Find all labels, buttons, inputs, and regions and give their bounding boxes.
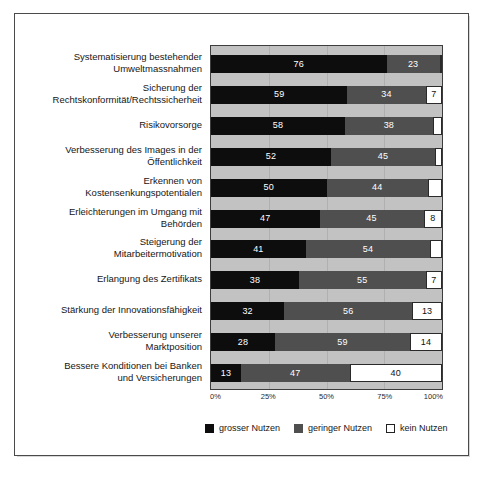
bar-segment-none: 8 [424,210,442,228]
bar-value-label: 13 [221,369,231,378]
bar-segment-big: 32 [211,302,284,320]
bar-row: 134740 [211,364,442,382]
bar-segment-none [430,240,442,258]
category-label: Bessere Konditionen bei Bankenund Versic… [12,360,202,384]
x-tick-label: 0% [210,392,221,401]
bar-segment-small: 56 [284,302,412,320]
bar-segment-none: 7 [426,86,442,104]
bar-row: 59347 [211,86,442,104]
bar-value-label: 8 [430,214,435,223]
bar-value-label: 7 [431,276,436,285]
legend-item: grosser Nutzen [205,423,280,433]
x-tick-label: 50% [319,392,334,401]
bar-value-label: 47 [290,369,300,378]
bar-segment-big: 38 [211,271,299,289]
category-label: Sicherung derRechtskonformität/Rechtssic… [12,82,202,106]
category-label-column: Systematisierung bestehenderUmweltmassna… [12,45,202,390]
bar-value-label: 59 [337,338,347,347]
bar-row: 5838 [211,117,442,135]
bar-segment-small: 23 [387,55,440,73]
bar-segment-big: 59 [211,86,347,104]
x-tick-label: 100% [424,392,443,401]
bar-segment-none: 7 [426,271,442,289]
bar-value-label: 76 [294,60,304,69]
bar-value-label: 14 [421,338,431,347]
bar-row: 285914 [211,333,442,351]
category-label: Verbesserung des Images in derÖffentlich… [12,144,202,168]
bar-segment-big: 41 [211,240,306,258]
bar-segment-small: 45 [331,148,435,166]
stacked-bar-chart: Systematisierung bestehenderUmweltmassna… [0,0,488,477]
bar-value-label: 38 [384,121,394,130]
bar-segment-small: 55 [299,271,426,289]
bar-value-label: 55 [357,276,367,285]
bar-value-label: 41 [253,245,263,254]
bar-row: 325613 [211,302,442,320]
bar-row: 47458 [211,210,442,228]
category-label: Erlangung des Zertifikats [12,273,202,285]
bar-value-label: 32 [242,307,252,316]
bar-segment-small: 45 [320,210,424,228]
category-label: Risikovorsorge [12,119,202,131]
x-tick-label: 75% [377,392,392,401]
x-tick-label: 25% [261,392,276,401]
bar-segment-big: 50 [211,179,327,197]
bar-segment-none: 14 [410,333,442,351]
bar-value-label: 52 [266,152,276,161]
legend-swatch-icon [294,424,303,433]
bar-segment-none [435,148,442,166]
bar-value-label: 34 [381,90,391,99]
bar-row: 7623 [211,55,442,73]
bar-segment-none [428,179,442,197]
bar-segment-small: 47 [241,364,350,382]
bar-value-label: 28 [238,338,248,347]
bar-value-label: 50 [264,183,274,192]
bar-segment-big: 76 [211,55,387,73]
bar-value-label: 40 [391,369,401,378]
legend-item: kein Nutzen [386,423,448,433]
legend-swatch-icon [205,424,214,433]
legend-item: geringer Nutzen [294,423,372,433]
bar-row: 5245 [211,148,442,166]
bar-value-label: 44 [372,183,382,192]
bar-segment-big: 28 [211,333,275,351]
bar-segment-big: 47 [211,210,320,228]
bar-segment-small: 34 [347,86,426,104]
legend-label: geringer Nutzen [308,423,372,433]
bar-value-label: 38 [250,276,260,285]
bar-value-label: 59 [274,90,284,99]
bar-segment-none [433,117,442,135]
bar-value-label: 45 [378,152,388,161]
bar-row: 4154 [211,240,442,258]
bar-segment-big: 13 [211,364,241,382]
bar-value-label: 23 [408,60,418,69]
legend-label: grosser Nutzen [219,423,280,433]
category-label: Erkennen vonKostensenkungspotentialen [12,175,202,199]
bar-value-label: 47 [260,214,270,223]
legend-swatch-icon [386,424,395,433]
bar-segment-small: 44 [327,179,429,197]
category-label: Stärkung der Innovationsfähigkeit [12,304,202,316]
bar-value-label: 7 [431,90,436,99]
bar-segment-small: 59 [275,333,410,351]
bar-segment-big: 52 [211,148,331,166]
category-label: Erleichterungen im Umgang mitBehörden [12,206,202,230]
category-label: Systematisierung bestehenderUmweltmassna… [12,51,202,75]
plot-area: 7623593475838524550444745841543855732561… [210,45,443,390]
bar-segment-small: 54 [306,240,431,258]
bar-row: 5044 [211,179,442,197]
category-label: Steigerung derMitarbeitermotivation [12,236,202,260]
bar-value-label: 56 [343,307,353,316]
bar-value-label: 13 [422,307,432,316]
bar-value-label: 58 [273,121,283,130]
legend-label: kein Nutzen [400,423,448,433]
bar-segment-none: 40 [350,364,442,382]
bar-row: 38557 [211,271,442,289]
bar-segment-small: 38 [345,117,433,135]
chart-legend: grosser Nutzengeringer Nutzenkein Nutzen [205,420,455,436]
bar-value-label: 45 [366,214,376,223]
bar-value-label: 54 [363,245,373,254]
bar-segment-big: 58 [211,117,345,135]
x-axis-ticks: 0%25%50%75%100% [210,392,443,406]
bar-segment-none [440,55,442,73]
